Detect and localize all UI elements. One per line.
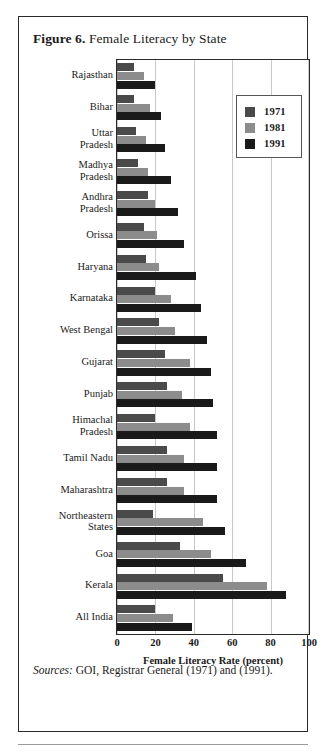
legend-label: 1981 <box>264 122 286 133</box>
bar <box>117 391 182 399</box>
bar <box>117 455 184 463</box>
bar <box>117 399 213 407</box>
bar <box>117 136 146 144</box>
bar <box>117 168 148 176</box>
bar <box>117 112 161 120</box>
bar <box>117 423 190 431</box>
bar <box>117 272 196 280</box>
bar <box>117 559 246 567</box>
bar <box>117 574 223 582</box>
legend-entry: 1971 <box>245 106 295 117</box>
bar <box>117 72 144 80</box>
bar <box>117 359 190 367</box>
legend-swatch <box>245 123 255 133</box>
bar <box>117 104 150 112</box>
legend-swatch <box>245 107 255 117</box>
figure-card: Figure 6. Female Literacy by State Rajas… <box>18 16 308 732</box>
bar <box>117 223 144 231</box>
figure-number: Figure 6. <box>33 31 85 46</box>
bar <box>117 81 155 89</box>
legend-label: 1991 <box>264 138 286 149</box>
bar <box>117 231 157 239</box>
y-axis-label: West Bengal <box>33 324 113 336</box>
y-axis-label: Bihar <box>33 101 113 113</box>
bar <box>117 542 180 550</box>
bar <box>117 382 167 390</box>
x-axis-tick: 100 <box>301 637 317 648</box>
legend-entry: 1991 <box>245 138 295 149</box>
bar <box>117 550 211 558</box>
y-axis-label: Himachal Pradesh <box>33 414 113 437</box>
sources-text: GOI, Registrar General (1971) and (1991)… <box>73 664 273 676</box>
bar <box>117 591 286 599</box>
x-axis-tick: 80 <box>265 637 276 648</box>
bar <box>117 478 167 486</box>
bar <box>117 463 217 471</box>
bar <box>117 295 171 303</box>
y-axis-label: Orissa <box>33 229 113 241</box>
y-axis-label: Karnataka <box>33 292 113 304</box>
bar <box>117 431 217 439</box>
bar <box>117 527 225 535</box>
y-axis-label: Madhya Pradesh <box>33 159 113 182</box>
y-axis-label: Gujarat <box>33 356 113 368</box>
bar <box>117 144 165 152</box>
y-axis-label: Goa <box>33 548 113 560</box>
x-axis-tick: 60 <box>227 637 238 648</box>
y-axis-label: Maharashtra <box>33 484 113 496</box>
bar <box>117 510 153 518</box>
y-axis-label: All India <box>33 611 113 623</box>
bar <box>117 318 159 326</box>
bar <box>117 176 171 184</box>
bar <box>117 605 155 613</box>
bar <box>117 159 138 167</box>
bar <box>117 495 217 503</box>
bar <box>117 200 155 208</box>
bar <box>117 518 203 526</box>
sources-note: Sources: GOI, Registrar General (1971) a… <box>33 663 295 679</box>
bar <box>117 304 201 312</box>
figure-title: Figure 6. Female Literacy by State <box>33 31 227 47</box>
bar <box>117 614 173 622</box>
bar <box>117 95 134 103</box>
legend-entry: 1981 <box>245 122 295 133</box>
x-axis-tick: 0 <box>114 637 119 648</box>
bar <box>117 255 146 263</box>
x-axis-ticks: 020406080100 <box>116 637 310 653</box>
y-axis-label: Kerala <box>33 579 113 591</box>
bar <box>117 191 148 199</box>
y-axis-label: Andhra Pradesh <box>33 191 113 214</box>
bar <box>117 446 167 454</box>
bar <box>117 487 184 495</box>
bar <box>117 414 155 422</box>
bar <box>117 350 165 358</box>
bar <box>117 63 134 71</box>
figure-title-text: Female Literacy by State <box>89 31 227 46</box>
y-axis-label: Punjab <box>33 388 113 400</box>
bar <box>117 240 184 248</box>
page-divider <box>18 744 308 745</box>
y-axis-label: Rajasthan <box>33 69 113 81</box>
legend-label: 1971 <box>264 106 286 117</box>
bar <box>117 327 175 335</box>
y-axis-label: Northeastern States <box>33 510 113 533</box>
bar <box>117 127 136 135</box>
sources-label: Sources: <box>33 664 73 676</box>
bar <box>117 368 211 376</box>
chart-area: RajasthanBiharUttar PradeshMadhya Prades… <box>33 59 295 651</box>
y-axis-label: Tamil Nadu <box>33 452 113 464</box>
bar <box>117 336 207 344</box>
y-axis-labels: RajasthanBiharUttar PradeshMadhya Prades… <box>33 59 113 633</box>
y-axis-label: Haryana <box>33 261 113 273</box>
chart-legend: 197119811991 <box>236 95 302 158</box>
x-axis-tick: 20 <box>150 637 161 648</box>
bar <box>117 263 159 271</box>
x-axis-tick: 40 <box>189 637 200 648</box>
bar <box>117 208 178 216</box>
y-axis-label: Uttar Pradesh <box>33 127 113 150</box>
legend-swatch <box>245 139 255 149</box>
bar <box>117 623 192 631</box>
bar <box>117 287 155 295</box>
bar <box>117 582 267 590</box>
